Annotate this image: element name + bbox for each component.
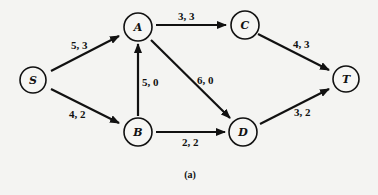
edge-a-c: 3, 3 xyxy=(156,10,226,25)
node-s: S xyxy=(20,67,46,93)
node-label-c: C xyxy=(241,19,250,32)
edge-label-d-t: 3, 2 xyxy=(294,106,311,118)
node-a: A xyxy=(124,13,152,41)
edge-b-a: 5, 0 xyxy=(138,44,159,116)
node-label-s: S xyxy=(29,74,37,87)
edge-c-t: 4, 3 xyxy=(258,34,329,70)
edge-s-a: 5, 3 xyxy=(51,36,119,71)
edge-label-b-a: 5, 0 xyxy=(142,76,159,88)
node-b: B xyxy=(124,118,152,146)
edge-label-a-c: 3, 3 xyxy=(178,10,195,22)
node-label-a: A xyxy=(133,21,143,34)
edge-label-b-d: 2, 2 xyxy=(182,136,199,148)
node-label-t: T xyxy=(342,73,351,86)
node-label-d: D xyxy=(237,126,248,139)
flow-network-diagram: 5, 3 4, 2 5, 0 3, 3 6, 0 2, 2 4, 3 3, 2 … xyxy=(0,0,378,195)
edge-a-d: 6, 0 xyxy=(151,40,230,118)
node-d: D xyxy=(229,118,257,146)
edge-label-s-a: 5, 3 xyxy=(71,39,88,51)
node-label-b: B xyxy=(132,126,142,139)
figure-caption: (a) xyxy=(184,169,196,181)
edge-s-b: 4, 2 xyxy=(51,89,119,123)
edge-label-s-b: 4, 2 xyxy=(69,108,86,120)
edge-label-a-d: 6, 0 xyxy=(197,74,214,86)
edge-b-d: 2, 2 xyxy=(156,132,225,148)
edge-d-t: 3, 2 xyxy=(260,89,329,124)
node-t: T xyxy=(333,66,359,92)
node-c: C xyxy=(231,11,259,39)
edge-label-c-t: 4, 3 xyxy=(293,38,310,50)
